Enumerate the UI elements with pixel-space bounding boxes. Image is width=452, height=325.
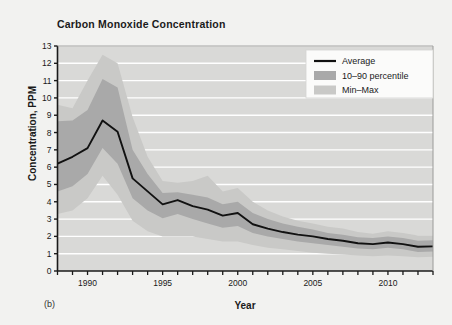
x-axis-ticks: 19901995200020052010 bbox=[58, 271, 434, 288]
y-tick-label: 11 bbox=[43, 76, 52, 86]
y-tick-label: 2 bbox=[47, 231, 52, 241]
y-tick-label: 9 bbox=[47, 110, 52, 120]
legend-item-label: Average bbox=[342, 56, 375, 66]
y-tick-label: 1 bbox=[47, 249, 52, 259]
x-tick-label: 2010 bbox=[378, 278, 397, 288]
figure-panel: Carbon Monoxide Concentration Concentrat… bbox=[0, 0, 452, 325]
x-tick-label: 2000 bbox=[228, 278, 247, 288]
chart-plot-area: 01234567891011121319901995200020052010Av… bbox=[0, 0, 452, 325]
chart-legend: Average10–90 percentileMin–Max bbox=[306, 50, 433, 98]
legend-swatch-patch bbox=[314, 71, 336, 80]
y-axis-ticks: 012345678910111213 bbox=[42, 41, 57, 276]
y-tick-label: 6 bbox=[47, 162, 52, 172]
y-tick-label: 4 bbox=[47, 197, 52, 207]
y-tick-label: 13 bbox=[42, 41, 52, 51]
y-tick-label: 3 bbox=[47, 214, 52, 224]
x-tick-label: 1995 bbox=[153, 278, 172, 288]
legend-item-label: Min–Max bbox=[342, 85, 379, 95]
x-tick-label: 1990 bbox=[78, 278, 97, 288]
legend-swatch-patch bbox=[314, 86, 336, 95]
y-tick-label: 8 bbox=[47, 128, 52, 138]
y-tick-label: 7 bbox=[47, 145, 52, 155]
y-tick-label: 5 bbox=[47, 179, 52, 189]
x-tick-label: 2005 bbox=[303, 278, 322, 288]
legend-item-label: 10–90 percentile bbox=[342, 71, 409, 81]
y-tick-label: 12 bbox=[42, 58, 52, 68]
y-tick-label: 0 bbox=[47, 266, 52, 276]
y-tick-label: 10 bbox=[42, 93, 52, 103]
